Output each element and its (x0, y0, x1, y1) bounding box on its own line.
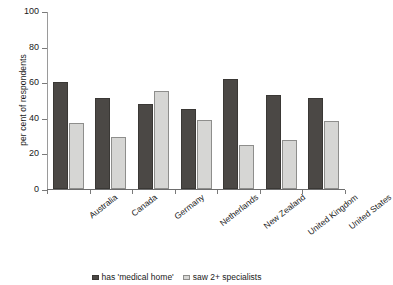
y-axis-tick-label: 20 (29, 148, 39, 158)
legend-label: saw 2+ specialists (193, 272, 262, 282)
bar-group (181, 11, 212, 189)
bar[interactable] (324, 121, 339, 189)
bar[interactable] (95, 98, 110, 189)
x-axis-labels: AustraliaCanadaGermanyNetherlandsNew Zea… (47, 192, 345, 254)
x-axis-label: Australia (87, 192, 119, 220)
legend-label: has 'medical home' (102, 272, 174, 282)
y-axis-tick: 100 (42, 12, 47, 13)
bar[interactable] (138, 104, 153, 189)
x-axis-label: Netherlands (218, 192, 260, 228)
bar-group (223, 11, 254, 189)
x-axis-label: Canada (129, 192, 159, 218)
legend-entry[interactable]: saw 2+ specialists (183, 272, 262, 282)
bar[interactable] (69, 123, 84, 189)
y-axis-line (47, 12, 48, 190)
bar[interactable] (154, 91, 169, 189)
bar[interactable] (266, 95, 281, 189)
bar[interactable] (282, 140, 297, 189)
y-axis-tick-label: 60 (29, 77, 39, 87)
bar-group (53, 11, 84, 189)
legend-swatch-icon (183, 275, 190, 280)
x-axis-line (47, 189, 345, 190)
legend-entry[interactable]: has 'medical home' (92, 272, 174, 282)
bar[interactable] (239, 145, 254, 190)
chart-legend: has 'medical home'saw 2+ specialists (0, 272, 353, 282)
bar[interactable] (111, 137, 126, 189)
plot-area: 020406080100 (47, 12, 345, 190)
x-axis-label: New Zealand (261, 192, 307, 231)
y-axis-tick-label: 100 (24, 6, 39, 16)
y-axis-tick: 40 (42, 119, 47, 120)
x-axis-label: Germany (173, 192, 207, 221)
y-axis-title: per cent of respondents (18, 25, 28, 175)
y-axis-tick: 60 (42, 83, 47, 84)
bar-group (266, 11, 297, 189)
bar-group (308, 11, 339, 189)
x-axis-tick (345, 190, 346, 194)
bar[interactable] (197, 120, 212, 189)
y-axis-tick: 20 (42, 154, 47, 155)
bar[interactable] (223, 79, 238, 189)
bar-group (138, 11, 169, 189)
bar[interactable] (308, 98, 323, 189)
y-axis-tick-label: 40 (29, 113, 39, 123)
y-axis-tick-label: 0 (34, 184, 39, 194)
bar[interactable] (53, 82, 68, 189)
y-axis-tick: 80 (42, 48, 47, 49)
y-axis-tick-label: 80 (29, 42, 39, 52)
legend-swatch-icon (92, 275, 99, 280)
bar-group (95, 11, 126, 189)
bar[interactable] (181, 109, 196, 189)
